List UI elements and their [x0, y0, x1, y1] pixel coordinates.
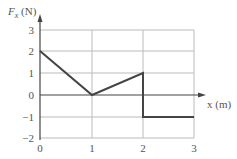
- y-tick: −2: [22, 132, 34, 144]
- y-tick: 2: [29, 45, 35, 57]
- y-axis-label: Fx (N): [7, 5, 37, 20]
- y-tick: 0: [29, 89, 35, 101]
- x-tick: 0: [37, 142, 43, 154]
- axes: [40, 20, 200, 140]
- x-tick: 2: [140, 142, 146, 154]
- x-axis-arrow-icon: [198, 93, 206, 98]
- y-tick: −1: [22, 111, 34, 123]
- x-axis-label: x (m): [207, 98, 231, 111]
- force-position-chart: 3 2 1 0 −1 −2 0 1 2 3 Fx (N) x (m): [0, 0, 237, 159]
- x-tick: 1: [89, 142, 95, 154]
- y-tick: 1: [29, 67, 35, 79]
- y-axis-arrow-icon: [38, 14, 43, 22]
- y-tick: 3: [29, 24, 35, 36]
- force-curve: [40, 51, 194, 117]
- y-tick-labels: 3 2 1 0 −1 −2: [22, 24, 34, 144]
- x-tick: 3: [191, 142, 197, 154]
- x-tick-labels: 0 1 2 3: [37, 142, 197, 154]
